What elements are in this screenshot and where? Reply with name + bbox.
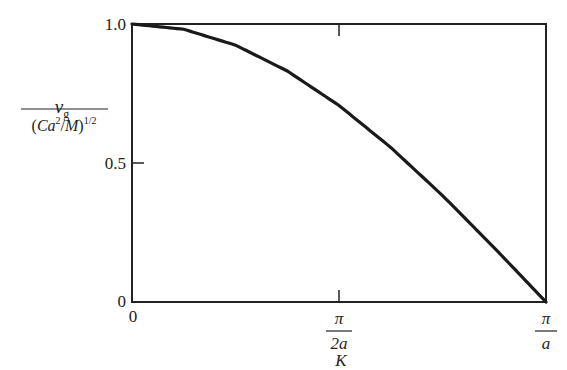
x-tick-label-pi-a-denominator: a	[542, 334, 551, 353]
y-axis-label: vg (Ca2/M)1/2	[21, 96, 108, 135]
group-velocity-curve	[132, 24, 546, 302]
x-tick-label-0: 0	[129, 307, 138, 326]
y-tick-label-0: 0	[118, 292, 127, 311]
x-tick-label-pi-a-numerator: π	[542, 309, 551, 328]
x-tick-label-pi-2a-numerator: π	[335, 309, 344, 328]
svg-text:(Ca2/M)1/2: (Ca2/M)1/2	[32, 115, 97, 135]
x-axis-label: K	[334, 351, 348, 370]
y-tick-label-1.0: 1.0	[105, 15, 126, 34]
y-tick-label-0.5: 0.5	[105, 154, 126, 173]
y-label-exponent: 1/2	[84, 115, 97, 126]
chart: 1.0 0.5 0 0 π 2a π a K vg (Ca2/M)1/2	[0, 0, 567, 370]
plot-frame	[132, 24, 546, 302]
